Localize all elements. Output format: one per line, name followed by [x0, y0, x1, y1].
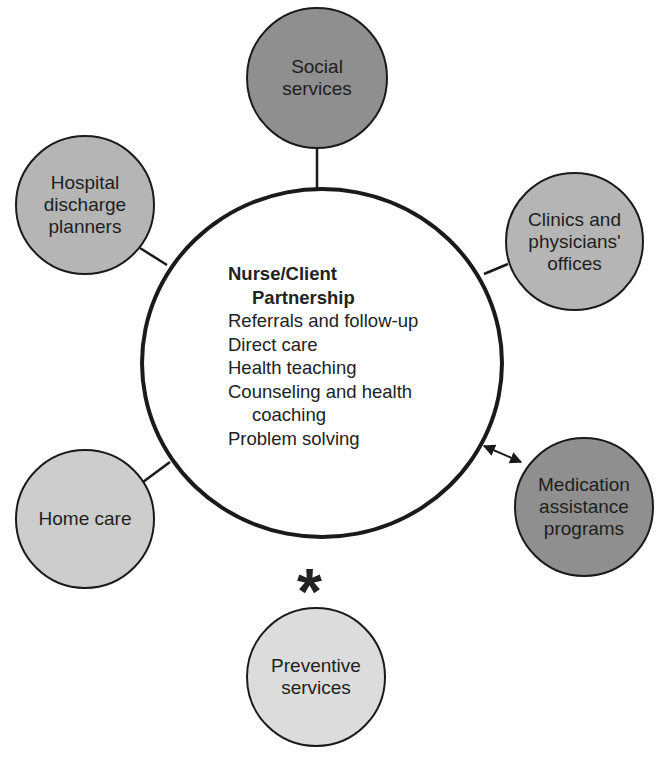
center-title-line1: Nurse/Client: [228, 262, 418, 286]
center-title-line2: Partnership: [228, 286, 418, 310]
connector-home-care: [143, 462, 170, 482]
center-item: Referrals and follow-up: [228, 309, 418, 333]
node-hospital-discharge-planners: Hospital discharge planners: [15, 135, 155, 275]
node-label: Home care: [39, 508, 132, 530]
center-item: Problem solving: [228, 427, 418, 451]
node-social-services: Social services: [246, 7, 388, 149]
node-preventive-services: Preventive services: [246, 607, 386, 747]
center-content: Nurse/Client Partnership Referrals and f…: [228, 262, 418, 450]
connector-medication-arrow: [484, 446, 521, 462]
node-medication-assistance-programs: Medication assistance programs: [514, 437, 654, 577]
node-home-care: Home care: [15, 449, 155, 589]
node-label: Social services: [282, 56, 352, 100]
center-item: Health teaching: [228, 356, 418, 380]
node-clinics-physicians-offices: Clinics and physicians' offices: [505, 172, 644, 311]
center-item: Counseling and health: [228, 380, 418, 404]
connector-hospital-discharge: [140, 248, 167, 265]
node-label: Preventive services: [271, 655, 361, 699]
center-item: coaching: [228, 403, 418, 427]
node-label: Hospital discharge planners: [44, 172, 126, 238]
center-item: Direct care: [228, 333, 418, 357]
node-label: Clinics and physicians' offices: [528, 209, 621, 275]
node-label: Medication assistance programs: [538, 474, 630, 540]
connector-clinics: [484, 264, 508, 274]
